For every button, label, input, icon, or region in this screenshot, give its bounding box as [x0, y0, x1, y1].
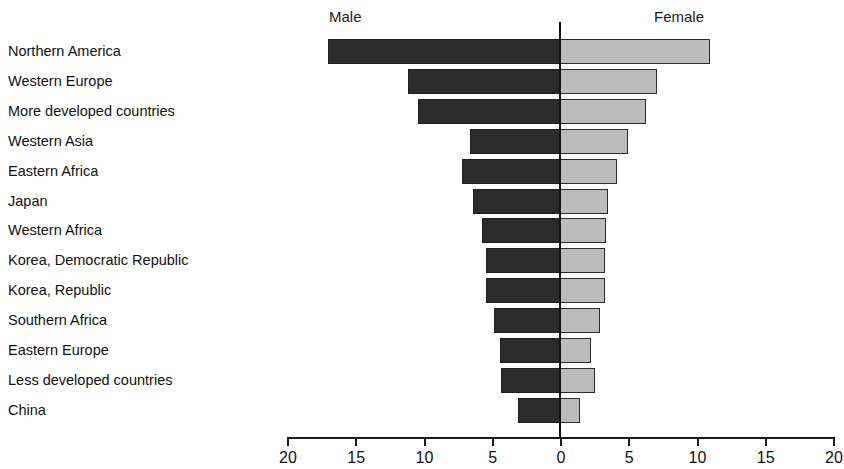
bar-male [486, 278, 560, 303]
x-axis-tick [287, 437, 289, 446]
bar-female [560, 159, 617, 184]
x-axis-tick [765, 437, 767, 446]
category-label: More developed countries [8, 103, 175, 119]
x-axis-tick [355, 437, 357, 446]
x-axis-tick [697, 437, 699, 446]
x-axis-tick-label: 5 [473, 449, 513, 467]
bar-male [501, 368, 560, 393]
category-label: Northern America [8, 43, 121, 59]
x-axis-tick-label: 15 [336, 449, 376, 467]
category-label: Western Africa [8, 222, 102, 238]
bar-female [560, 218, 606, 243]
bar-male [494, 308, 560, 333]
male-series-header: Male [329, 9, 362, 24]
bar-female [560, 368, 595, 393]
x-axis-tick-label: 10 [405, 449, 445, 467]
x-axis-tick-label: 5 [609, 449, 649, 467]
category-label: Western Asia [8, 133, 93, 149]
bar-male [408, 69, 560, 94]
x-axis-tick-label: 15 [746, 449, 786, 467]
x-axis-tick-label: 20 [814, 449, 844, 467]
bar-female [560, 99, 646, 124]
bar-female [560, 248, 605, 273]
x-axis-tick [560, 437, 562, 446]
bar-chart: Male Female Northern AmericaWestern Euro… [0, 0, 844, 469]
bar-female [560, 338, 591, 363]
category-label: China [8, 402, 46, 418]
female-series-header: Female [654, 9, 704, 24]
category-label: Japan [8, 193, 48, 209]
x-axis-tick-label: 10 [678, 449, 718, 467]
bar-male [328, 39, 560, 64]
category-label: Western Europe [8, 73, 113, 89]
x-axis-tick [424, 437, 426, 446]
bar-female [560, 129, 628, 154]
category-label: Korea, Republic [8, 282, 111, 298]
bar-female [560, 39, 710, 64]
x-axis-tick-label: 20 [268, 449, 308, 467]
category-label: Eastern Africa [8, 163, 98, 179]
bar-male [486, 248, 560, 273]
category-label: Less developed countries [8, 372, 172, 388]
x-axis-tick [833, 437, 835, 446]
x-axis-tick-label: 0 [541, 449, 581, 467]
bar-female [560, 69, 657, 94]
bar-male [470, 129, 560, 154]
category-label: Southern Africa [8, 312, 107, 328]
bar-female [560, 308, 600, 333]
x-axis-tick [628, 437, 630, 446]
bar-male [418, 99, 560, 124]
category-label: Korea, Democratic Republic [8, 252, 189, 268]
zero-axis-line [559, 22, 561, 438]
bar-male [462, 159, 560, 184]
bar-female [560, 189, 608, 214]
x-axis-tick [492, 437, 494, 446]
bar-male [473, 189, 560, 214]
bar-female [560, 398, 580, 423]
category-label: Eastern Europe [8, 342, 109, 358]
bar-male [482, 218, 560, 243]
bar-male [518, 398, 560, 423]
bar-male [500, 338, 560, 363]
bar-female [560, 278, 605, 303]
